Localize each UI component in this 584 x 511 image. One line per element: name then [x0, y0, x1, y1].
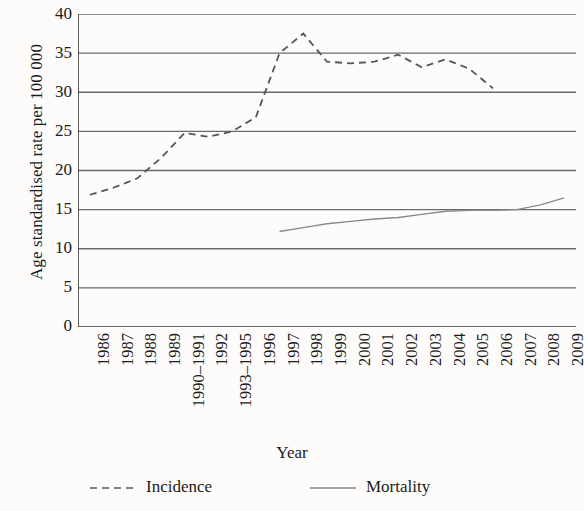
solid-line-icon	[310, 486, 356, 488]
y-tick-35: 35	[32, 44, 72, 61]
y-tick-15: 15	[32, 200, 72, 217]
legend-label-mortality: Mortality	[366, 478, 430, 495]
x-axis-title: Year	[0, 443, 584, 463]
y-tick-0: 0	[32, 317, 72, 334]
x-tick-label: 2000	[357, 333, 374, 366]
x-tick-label: 2008	[546, 333, 563, 366]
y-tick-25: 25	[32, 122, 72, 139]
legend-label-incidence: Incidence	[146, 478, 212, 495]
y-tick-40: 40	[32, 5, 72, 22]
line-chart-figure: Age standardised rate per 100 000 40 35 …	[0, 0, 584, 511]
x-tick-label: 1998	[309, 333, 326, 366]
x-tick-label: 2003	[428, 333, 445, 366]
series-line-mortality	[280, 198, 565, 232]
x-tick-label: 1992	[214, 333, 231, 366]
dashed-line-icon	[90, 486, 136, 488]
x-tick-label: 2006	[499, 333, 516, 366]
x-tick-label: 1999	[333, 333, 350, 366]
y-tick-30: 30	[32, 83, 72, 100]
x-tick-label: 1996	[262, 333, 279, 366]
x-tick-label: 1986	[96, 333, 113, 366]
x-tick-label: 2005	[475, 333, 492, 366]
x-tick-label: 2002	[404, 333, 421, 366]
x-tick-label: 1993–1995	[238, 333, 255, 407]
x-tick-label: 1997	[286, 333, 303, 366]
legend-item-mortality: Mortality	[310, 478, 430, 495]
legend-item-incidence: Incidence	[90, 478, 212, 495]
x-tick-label: 1988	[143, 333, 160, 366]
chart-svg	[78, 14, 576, 327]
y-tick-20: 20	[32, 161, 72, 178]
x-tick-label: 2009	[570, 333, 584, 366]
y-axis-tick-labels: 40 35 30 25 20 15 10 5 0	[30, 0, 72, 340]
x-tick-label: 2001	[380, 333, 397, 366]
y-tick-5: 5	[32, 278, 72, 295]
y-tick-10: 10	[32, 239, 72, 256]
x-tick-label: 1987	[120, 333, 137, 366]
x-tick-label: 1989	[167, 333, 184, 366]
chart-legend: Incidence Mortality	[0, 478, 584, 508]
x-tick-label: 1990–1991	[191, 333, 208, 407]
x-tick-label: 2007	[523, 333, 540, 366]
x-axis-tick-labels: 19861987198819891990–199119921993–199519…	[78, 333, 578, 443]
x-tick-label: 2004	[452, 333, 469, 366]
plot-area	[78, 14, 576, 327]
